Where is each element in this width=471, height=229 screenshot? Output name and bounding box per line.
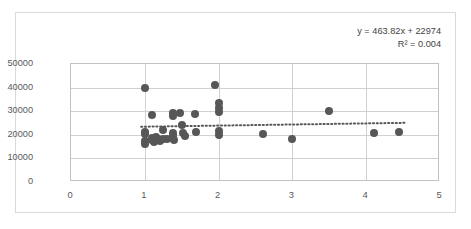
y-axis-tick-label: 20000 — [0, 129, 33, 139]
trendline — [71, 64, 440, 182]
data-point — [170, 136, 178, 144]
data-point — [215, 108, 223, 116]
data-point — [141, 84, 149, 92]
data-point — [288, 135, 296, 143]
data-point — [215, 131, 223, 139]
trendline-equation-annotation: y = 463.82x + 22974 R² = 0.004 — [357, 25, 441, 51]
x-axis-tick-label: 2 — [198, 189, 238, 200]
x-axis-tick-label: 3 — [271, 189, 311, 200]
x-axis-tick-label: 4 — [345, 189, 385, 200]
data-point — [148, 111, 156, 119]
data-point — [178, 121, 186, 129]
x-axis-tick-label: 5 — [419, 189, 459, 200]
y-axis-tick-label: 0 — [0, 176, 33, 186]
y-axis-tick-label: 30000 — [0, 105, 33, 115]
equation-text: y = 463.82x + 22974 — [357, 25, 441, 38]
y-axis-tick-label: 10000 — [0, 152, 33, 162]
plot-area — [70, 63, 439, 181]
y-axis-tick-label: 50000 — [0, 58, 33, 68]
data-point — [191, 110, 199, 118]
y-axis-tick-label: 40000 — [0, 82, 33, 92]
x-axis-tick-label: 1 — [124, 189, 164, 200]
x-axis-tick-label: 0 — [50, 189, 90, 200]
data-point — [181, 132, 189, 140]
data-point — [370, 129, 378, 137]
r-squared-text: R² = 0.004 — [357, 38, 441, 51]
data-point — [259, 130, 267, 138]
chart-figure: y = 463.82x + 22974 R² = 0.004 010000200… — [15, 12, 456, 213]
